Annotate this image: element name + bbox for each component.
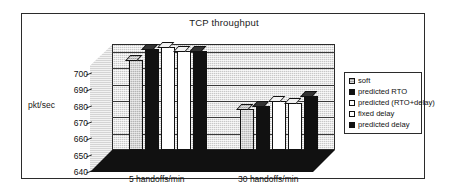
- bar: [161, 47, 175, 150]
- hatched-swatch-icon: [349, 78, 355, 84]
- black-swatch-icon: [349, 89, 355, 95]
- bar: [177, 51, 191, 150]
- legend-item-label: predicted delay: [358, 121, 410, 129]
- bar: [240, 109, 254, 150]
- x-category-label: 30 handoffs/min: [238, 174, 298, 184]
- legend-item-label: predicted RTO: [358, 88, 407, 96]
- chart-legend: softpredicted RTOpredicted (RTO+delay)fi…: [344, 72, 422, 134]
- bar: [272, 101, 286, 150]
- legend-item[interactable]: soft: [349, 77, 418, 85]
- legend-item-label: fixed delay: [358, 110, 394, 118]
- bar: [145, 49, 159, 150]
- y-axis-label: pkt/sec: [28, 100, 55, 110]
- plot-area: 700690680670660650640 5 handoffs/min30 h…: [90, 44, 335, 166]
- chart-title: TCP throughput: [22, 17, 426, 28]
- black-swatch-icon: [349, 122, 355, 128]
- figure-canvas: TCP throughput pkt/sec 70069068067066065…: [0, 0, 449, 193]
- legend-item-label: predicted (RTO+delay): [358, 99, 435, 107]
- chart-floor: [90, 150, 335, 172]
- white-swatch-icon: [349, 111, 355, 117]
- bar: [193, 51, 207, 150]
- legend-item-label: soft: [358, 77, 370, 85]
- legend-item[interactable]: predicted (RTO+delay): [349, 99, 418, 107]
- white-swatch-icon: [349, 100, 355, 106]
- bar: [304, 96, 318, 150]
- legend-item[interactable]: predicted delay: [349, 121, 418, 129]
- bar: [288, 103, 302, 150]
- chart-frame: TCP throughput pkt/sec 70069068067066065…: [21, 13, 425, 179]
- legend-item[interactable]: predicted RTO: [349, 88, 418, 96]
- legend-item[interactable]: fixed delay: [349, 110, 418, 118]
- x-category-label: 5 handoffs/min: [129, 174, 185, 184]
- bar: [256, 106, 270, 150]
- bar: [129, 60, 143, 150]
